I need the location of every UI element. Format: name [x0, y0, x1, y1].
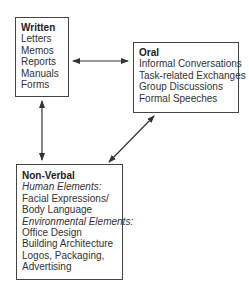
oral-item: Formal Speeches	[139, 93, 233, 104]
nonverbal-box: Non-Verbal Human Elements: Facial Expres…	[16, 164, 123, 280]
nonverbal-item: Office Design	[22, 227, 117, 238]
written-item: Manuals	[21, 68, 63, 79]
oral-item: Group Discussions	[139, 81, 233, 92]
nonverbal-title: Non-Verbal	[22, 170, 117, 181]
oral-box: Oral Informal Conversations Task-related…	[133, 42, 239, 113]
oral-item: Task-related Exchanges	[139, 70, 233, 81]
nonverbal-item: Advertising	[22, 261, 117, 272]
nonverbal-item: Body Language	[22, 204, 117, 215]
nonverbal-section-heading: Environmental Elements:	[22, 216, 117, 227]
written-item: Memos	[21, 45, 63, 56]
nonverbal-item: Logos, Packaging,	[22, 250, 117, 261]
nonverbal-item: Building Architecture	[22, 238, 117, 249]
nonverbal-section-heading: Human Elements:	[22, 181, 117, 192]
nonverbal-item: Facial Expressions/	[22, 193, 117, 204]
written-item: Reports	[21, 56, 63, 67]
oral-title: Oral	[139, 47, 233, 58]
written-title: Written	[21, 22, 63, 33]
written-box: Written Letters Memos Reports Manuals Fo…	[15, 17, 69, 97]
written-item: Letters	[21, 33, 63, 44]
arrow-oral-nonverbal	[109, 116, 154, 162]
written-item: Forms	[21, 79, 63, 90]
oral-item: Informal Conversations	[139, 58, 233, 69]
